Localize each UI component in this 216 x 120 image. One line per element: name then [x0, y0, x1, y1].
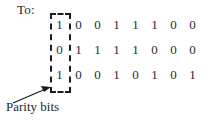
bit-cell: 0 — [164, 68, 183, 82]
parity-bits-figure: To: 1 0 0 1 1 1 0 0 0 1 1 1 1 0 0 0 1 0 … — [0, 0, 216, 120]
parity-bit: 1 — [50, 18, 69, 32]
bit-cell: 1 — [183, 68, 202, 82]
bit-cell: 0 — [126, 68, 145, 82]
bit-cell: 1 — [88, 43, 107, 57]
parity-bits-caption: Parity bits — [6, 99, 59, 114]
bit-cell: 0 — [183, 43, 202, 57]
bit-cell: 1 — [126, 18, 145, 32]
table-row: 1 0 0 1 1 1 0 0 — [50, 12, 202, 37]
bit-cell: 0 — [183, 18, 202, 32]
to-label: To: — [17, 2, 35, 17]
table-row: 1 0 0 1 0 1 0 1 — [50, 62, 202, 87]
bit-cell: 0 — [69, 18, 88, 32]
parity-bit: 0 — [50, 43, 69, 57]
bit-cell: 0 — [145, 43, 164, 57]
bit-cell: 0 — [69, 68, 88, 82]
bit-cell: 0 — [88, 18, 107, 32]
bit-cell: 0 — [164, 43, 183, 57]
bit-cell: 1 — [126, 43, 145, 57]
bit-cell: 1 — [145, 68, 164, 82]
bit-cell: 1 — [107, 43, 126, 57]
bit-cell: 1 — [107, 18, 126, 32]
bit-cell: 1 — [69, 43, 88, 57]
bit-matrix: 1 0 0 1 1 1 0 0 0 1 1 1 1 0 0 0 1 0 0 1 … — [50, 12, 202, 87]
bit-cell: 0 — [164, 18, 183, 32]
bit-cell: 1 — [145, 18, 164, 32]
bit-cell: 1 — [107, 68, 126, 82]
bit-cell: 0 — [88, 68, 107, 82]
table-row: 0 1 1 1 1 0 0 0 — [50, 37, 202, 62]
